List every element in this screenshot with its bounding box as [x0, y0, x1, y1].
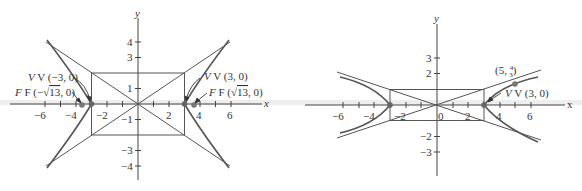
- y-tick-label: −4: [121, 160, 133, 172]
- x-tick-label: −6: [332, 110, 344, 122]
- point-label: (5, 43): [495, 64, 517, 79]
- focus-label: F F (−√13, 0): [14, 86, 75, 99]
- hyperbola-diagrams: x y −6 −4 −2 2 4 6 4 3 1 −1 −3 −4: [0, 0, 582, 191]
- y-tick-label: 2: [426, 67, 432, 79]
- vertex-label: V V (3, 0): [505, 87, 549, 100]
- y-tick-label: 3: [127, 51, 133, 63]
- vertex-label: V V (3, 0): [204, 70, 248, 83]
- x-tick-label: 4: [196, 109, 202, 121]
- vertex-label: V V (−3, 0): [28, 71, 78, 84]
- right-figure: x y −6 −4 −2 0 2 4 6 3 2 −2 −3: [305, 12, 573, 176]
- x-axis-label: x: [263, 97, 269, 109]
- vertex-point: [481, 102, 487, 108]
- x-tick-label: −4: [65, 109, 77, 121]
- vertex-point: [387, 102, 393, 108]
- vertex-point: [89, 101, 95, 107]
- y-tick-label: −3: [420, 146, 432, 158]
- label-arrows: [72, 78, 207, 103]
- x-tick-label: 6: [527, 110, 533, 122]
- focus-label: F F (√13, 0): [208, 86, 263, 99]
- focus-point: [79, 102, 85, 108]
- y-tick-label: −2: [420, 130, 432, 142]
- point-5-4-3: [512, 81, 518, 87]
- x-tick-label: −2: [96, 109, 108, 121]
- y-tick-label: −3: [121, 144, 133, 156]
- left-figure: x y −6 −4 −2 2 4 6 4 3 1 −1 −3 −4: [10, 7, 269, 180]
- x-tick-label: 2: [166, 109, 172, 121]
- y-axis-label: y: [134, 7, 140, 19]
- y-tick-label: 1: [127, 82, 133, 94]
- x-tick-label: 6: [227, 109, 233, 121]
- x-tick-label: −6: [34, 109, 46, 121]
- x-axis-label: x: [567, 98, 573, 110]
- vertex-point: [182, 101, 188, 107]
- y-axis-label: y: [433, 12, 439, 24]
- asymptote: [337, 72, 541, 140]
- y-tick-label: 4: [127, 36, 133, 48]
- y-tick-label: 3: [426, 52, 432, 64]
